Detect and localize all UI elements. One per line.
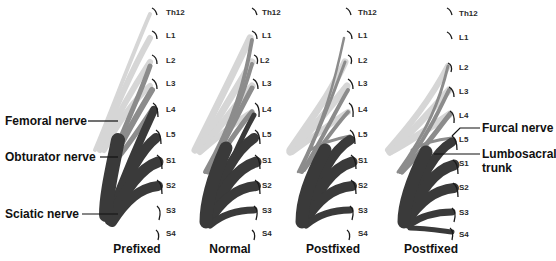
vertebra-label-s3: S3 (358, 207, 368, 215)
vertebra-label-l3: L3 (459, 88, 468, 96)
callout-sciatic-nerve: Sciatic nerve (5, 208, 79, 221)
vertebra-label-s4: S4 (262, 230, 272, 238)
lumbosacral-plexus-figure: Th12 L1 L2 L3 L4 L5 S1 S2 S3 S4 Th12 L1 … (0, 0, 556, 261)
panel-prefixed-nerves (82, 8, 162, 240)
vertebra-label-s4: S4 (358, 230, 368, 238)
vertebra-label-l5: L5 (358, 131, 367, 139)
callout-lumbosacral-trunk-line1: Lumbosacral (482, 148, 556, 161)
vertebra-label-s3: S3 (459, 209, 469, 217)
vertebra-label-l5: L5 (262, 131, 271, 139)
vertebra-label-l4: L4 (459, 112, 468, 120)
vertebra-label-th12: Th12 (459, 10, 478, 18)
vertebra-label-s3: S3 (262, 207, 272, 215)
vertebra-label-l3: L3 (262, 80, 271, 88)
vertebra-label-s1: S1 (459, 160, 469, 168)
vertebra-label-l5: L5 (166, 131, 175, 139)
caption-normal: Normal (209, 243, 250, 255)
vertebra-label-l2: L2 (358, 57, 367, 65)
vertebra-label-l2: L2 (459, 64, 468, 72)
panel-postfixed-2-nerves (388, 8, 480, 240)
vertebra-label-l4: L4 (166, 106, 175, 114)
caption-postfixed-1: Postfixed (306, 243, 360, 255)
vertebra-label-s2: S2 (459, 184, 469, 192)
vertebra-label-l3: L3 (358, 80, 367, 88)
callout-obturator-nerve: Obturator nerve (5, 151, 96, 164)
vertebra-label-s4: S4 (166, 230, 176, 238)
vertebra-label-l2: L2 (166, 57, 175, 65)
vertebra-label-s2: S2 (166, 182, 176, 190)
vertebra-label-th12: Th12 (166, 9, 185, 17)
nerve-diagram-graphics (0, 0, 556, 261)
vertebra-label-l1: L1 (166, 32, 175, 40)
vertebra-label-th12: Th12 (358, 9, 377, 17)
caption-prefixed: Prefixed (113, 243, 160, 255)
vertebra-label-l1: L1 (459, 34, 468, 42)
vertebra-label-l4: L4 (262, 106, 271, 114)
vertebra-label-s2: S2 (262, 182, 272, 190)
vertebra-label-l5: L5 (459, 136, 468, 144)
vertebra-label-s1: S1 (166, 157, 176, 165)
vertebra-label-l1: L1 (262, 32, 271, 40)
panel-postfixed-1-nerves (290, 8, 356, 240)
vertebra-label-s2: S2 (358, 182, 368, 190)
vertebra-label-th12: Th12 (262, 9, 281, 17)
vertebra-label-s1: S1 (358, 157, 368, 165)
panel-normal-nerves (195, 8, 260, 240)
vertebra-label-s3: S3 (166, 207, 176, 215)
caption-postfixed-2: Postfixed (404, 243, 458, 255)
vertebra-label-s1: S1 (262, 157, 272, 165)
vertebra-label-s4: S4 (459, 231, 469, 239)
vertebra-label-l2: L2 (260, 57, 269, 65)
vertebra-label-l4: L4 (358, 106, 367, 114)
callout-lumbosacral-trunk-line2: trunk (482, 162, 512, 175)
callout-furcal-nerve: Furcal nerve (482, 122, 553, 135)
callout-femoral-nerve: Femoral nerve (5, 115, 87, 128)
vertebra-label-l3: L3 (166, 80, 175, 88)
vertebra-label-l1: L1 (358, 32, 367, 40)
